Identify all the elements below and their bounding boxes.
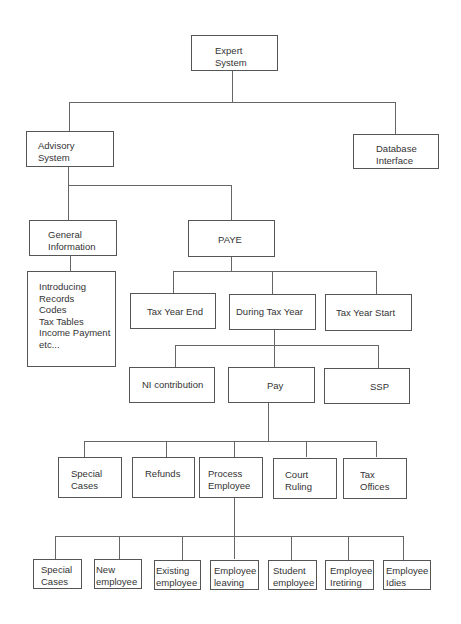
node-paye: PAYE	[188, 220, 275, 257]
connector	[376, 441, 377, 457]
connector	[68, 166, 69, 220]
connector	[234, 497, 235, 559]
connector	[69, 102, 396, 103]
node-tax-year-end: Tax Year End	[130, 293, 216, 329]
node-employee-leaving: Employeeleaving	[210, 560, 259, 590]
node-expert-system: ExpertSystem	[191, 35, 278, 71]
connector	[84, 441, 377, 442]
connector	[395, 102, 396, 134]
connector	[70, 255, 71, 271]
node-refunds: Refunds	[132, 457, 195, 498]
node-special-cases: SpecialCases	[58, 457, 122, 498]
connector	[306, 441, 307, 457]
connector	[272, 271, 273, 294]
connector	[173, 271, 174, 293]
connector	[84, 441, 85, 457]
connector	[175, 345, 379, 346]
node-new-employee: Newemployee	[94, 559, 142, 589]
node-existing-employee: Existingemployee	[154, 560, 201, 590]
connector	[119, 536, 120, 559]
connector	[231, 185, 232, 220]
connector	[173, 271, 377, 272]
connector	[291, 536, 292, 560]
connector	[68, 185, 231, 186]
node-tax-year-start: Tax Year Start	[325, 294, 412, 331]
node-general-information: GeneralInformation	[29, 220, 117, 256]
node-tax-offices: TaxOffices	[343, 458, 407, 499]
node-employee-dies: EmployeeIdies	[383, 560, 431, 590]
connector	[55, 536, 56, 559]
node-process-employee: ProcessEmployee	[199, 457, 263, 498]
node-pay: Pay	[228, 367, 315, 403]
connector	[232, 70, 233, 102]
connector	[166, 441, 167, 457]
node-during-tax-year: During Tax Year	[229, 294, 316, 330]
node-student-employee: Studentemployee	[268, 560, 317, 590]
node-ssp: SSP	[324, 368, 410, 404]
connector	[69, 102, 70, 131]
connector	[274, 329, 275, 367]
connector	[403, 536, 404, 560]
connector	[378, 345, 379, 368]
connector	[268, 402, 269, 441]
node-advisory-system: AdvisorySystem	[26, 131, 114, 167]
node-special-cases-employee: SpecialCases	[33, 559, 82, 589]
connector	[175, 345, 176, 367]
connector	[55, 536, 404, 537]
node-database-interface: DatabaseInterface	[353, 134, 439, 169]
node-court-ruling: CourtRuling	[273, 458, 337, 499]
connector	[234, 441, 235, 457]
connector	[348, 536, 349, 560]
node-employee-retiring: EmployeeIretiring	[325, 560, 374, 590]
node-info-list: IntroducingRecordsCodesTax TablesIncome …	[27, 271, 116, 367]
node-ni-contribution: NI contribution	[129, 367, 215, 403]
connector	[376, 271, 377, 294]
connector	[231, 256, 232, 271]
connector	[182, 536, 183, 560]
